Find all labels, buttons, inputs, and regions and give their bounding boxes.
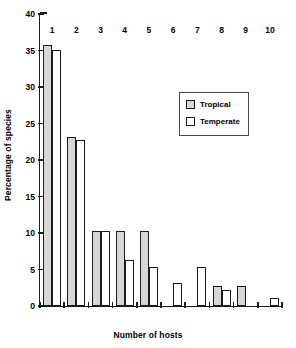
legend-swatch-temperate-icon	[186, 117, 195, 126]
bar-temperate-6	[173, 283, 182, 306]
bar-temperate-2	[76, 140, 85, 306]
y-tick-label-25: 25	[26, 119, 35, 128]
chart-figure: Percentage of species 0510152025303540 1…	[0, 0, 296, 348]
bar-temperate-10	[270, 298, 279, 306]
x-tick-end	[281, 302, 283, 308]
bar-tropical-8	[213, 286, 222, 306]
bar-temperate-8	[222, 290, 231, 306]
y-tick-label-30: 30	[26, 83, 35, 92]
y-tick-label-40: 40	[26, 10, 35, 19]
x-tick-8	[209, 302, 211, 308]
plot-area: 0510152025303540 12345678910 Tropical Te…	[39, 14, 282, 307]
y-tick-label-20: 20	[26, 156, 35, 165]
x-axis-title-text: Number of hosts	[113, 330, 182, 340]
x-tick-1	[39, 302, 41, 308]
bar-tropical-2	[67, 137, 76, 306]
legend-label-temperate: Temperate	[200, 118, 240, 126]
y-axis-title: Percentage of species	[0, 0, 16, 310]
y-axis-title-text: Percentage of species	[3, 109, 13, 201]
x-tick-7	[184, 302, 186, 308]
x-tick-4	[112, 302, 114, 308]
legend-swatch-tropical-icon	[186, 100, 195, 109]
bar-temperate-4	[125, 260, 134, 306]
y-tick-label-35: 35	[26, 46, 35, 55]
x-tick-label-6: 6	[171, 26, 176, 35]
y-tick-40	[38, 13, 44, 15]
x-tick-2	[63, 302, 65, 308]
x-tick-label-8: 8	[219, 26, 224, 35]
bar-temperate-5	[149, 267, 158, 306]
x-tick-10	[257, 302, 259, 308]
y-tick-label-0: 0	[30, 302, 35, 311]
bar-tropical-4	[116, 231, 125, 306]
bar-temperate-3	[101, 231, 110, 306]
bar-tropical-3	[92, 231, 101, 306]
x-tick-label-7: 7	[195, 26, 200, 35]
y-tick-label-5: 5	[30, 265, 35, 274]
x-tick-label-5: 5	[147, 26, 152, 35]
x-tick-label-10: 10	[265, 26, 274, 35]
x-axis-title: Number of hosts	[0, 330, 296, 340]
chart-legend: Tropical Temperate	[179, 92, 249, 136]
x-tick-label-9: 9	[243, 26, 248, 35]
x-tick-label-1: 1	[50, 26, 55, 35]
x-tick-label-3: 3	[98, 26, 103, 35]
bar-tropical-1	[43, 45, 52, 306]
legend-item-temperate: Temperate	[186, 117, 240, 126]
y-tick-label-10: 10	[26, 229, 35, 238]
x-tick-6	[160, 302, 162, 308]
legend-item-tropical: Tropical	[186, 100, 231, 109]
x-tick-3	[88, 302, 90, 308]
bar-tropical-9	[237, 286, 246, 306]
bar-tropical-5	[140, 231, 149, 306]
y-tick-label-15: 15	[26, 192, 35, 201]
x-tick-5	[136, 302, 138, 308]
x-tick-label-4: 4	[122, 26, 127, 35]
x-tick-label-2: 2	[74, 26, 79, 35]
x-tick-9	[233, 302, 235, 308]
bar-temperate-7	[197, 267, 206, 306]
bar-temperate-1	[52, 50, 61, 306]
legend-label-tropical: Tropical	[200, 101, 231, 109]
